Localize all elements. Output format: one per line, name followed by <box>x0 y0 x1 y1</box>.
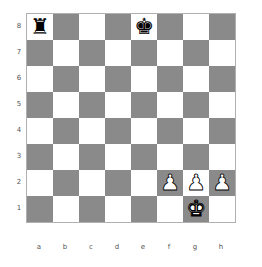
white-pawn-icon[interactable]: ♟ <box>186 170 206 196</box>
square-c4[interactable] <box>79 118 105 144</box>
square-g4[interactable] <box>183 118 209 144</box>
white-pawn-icon[interactable]: ♟ <box>212 170 232 196</box>
square-f8[interactable] <box>157 14 183 40</box>
square-h7[interactable] <box>209 40 235 66</box>
chess-board: ♜♚♟♟♟♚ <box>26 13 236 223</box>
file-label-h: h <box>208 243 234 251</box>
square-b6[interactable] <box>53 66 79 92</box>
square-c1[interactable] <box>79 196 105 222</box>
square-d4[interactable] <box>105 118 131 144</box>
square-f4[interactable] <box>157 118 183 144</box>
square-d3[interactable] <box>105 144 131 170</box>
square-a6[interactable] <box>27 66 53 92</box>
square-e5[interactable] <box>131 92 157 118</box>
white-pawn-icon[interactable]: ♟ <box>160 170 180 196</box>
square-g6[interactable] <box>183 66 209 92</box>
rank-label-6: 6 <box>14 74 24 82</box>
rank-label-8: 8 <box>14 22 24 30</box>
square-a1[interactable] <box>27 196 53 222</box>
square-h1[interactable] <box>209 196 235 222</box>
square-h8[interactable] <box>209 14 235 40</box>
square-b1[interactable] <box>53 196 79 222</box>
square-g2[interactable]: ♟ <box>183 170 209 196</box>
square-e2[interactable] <box>131 170 157 196</box>
square-h2[interactable]: ♟ <box>209 170 235 196</box>
file-label-d: d <box>104 243 130 251</box>
square-b3[interactable] <box>53 144 79 170</box>
rank-label-4: 4 <box>14 126 24 134</box>
square-c6[interactable] <box>79 66 105 92</box>
square-g1[interactable]: ♚ <box>183 196 209 222</box>
square-f2[interactable]: ♟ <box>157 170 183 196</box>
square-f1[interactable] <box>157 196 183 222</box>
square-a3[interactable] <box>27 144 53 170</box>
rank-label-1: 1 <box>14 204 24 212</box>
square-h5[interactable] <box>209 92 235 118</box>
square-h3[interactable] <box>209 144 235 170</box>
square-c7[interactable] <box>79 40 105 66</box>
file-label-a: a <box>26 243 52 251</box>
square-b4[interactable] <box>53 118 79 144</box>
rank-label-2: 2 <box>14 178 24 186</box>
square-d8[interactable] <box>105 14 131 40</box>
square-g7[interactable] <box>183 40 209 66</box>
square-h4[interactable] <box>209 118 235 144</box>
square-f3[interactable] <box>157 144 183 170</box>
square-b5[interactable] <box>53 92 79 118</box>
square-b7[interactable] <box>53 40 79 66</box>
square-d6[interactable] <box>105 66 131 92</box>
square-b2[interactable] <box>53 170 79 196</box>
square-e7[interactable] <box>131 40 157 66</box>
square-e8[interactable]: ♚ <box>131 14 157 40</box>
file-label-f: f <box>156 243 182 251</box>
square-a8[interactable]: ♜ <box>27 14 53 40</box>
square-e6[interactable] <box>131 66 157 92</box>
file-label-c: c <box>78 243 104 251</box>
black-rook-icon[interactable]: ♜ <box>30 14 50 40</box>
rank-label-7: 7 <box>14 48 24 56</box>
black-king-icon[interactable]: ♚ <box>134 14 154 40</box>
square-b8[interactable] <box>53 14 79 40</box>
square-f5[interactable] <box>157 92 183 118</box>
square-g8[interactable] <box>183 14 209 40</box>
square-d2[interactable] <box>105 170 131 196</box>
square-c3[interactable] <box>79 144 105 170</box>
square-g5[interactable] <box>183 92 209 118</box>
square-f6[interactable] <box>157 66 183 92</box>
square-e1[interactable] <box>131 196 157 222</box>
square-c8[interactable] <box>79 14 105 40</box>
file-label-e: e <box>130 243 156 251</box>
square-a2[interactable] <box>27 170 53 196</box>
file-label-g: g <box>182 243 208 251</box>
square-a5[interactable] <box>27 92 53 118</box>
square-d5[interactable] <box>105 92 131 118</box>
square-a7[interactable] <box>27 40 53 66</box>
square-h6[interactable] <box>209 66 235 92</box>
square-e4[interactable] <box>131 118 157 144</box>
rank-label-3: 3 <box>14 152 24 160</box>
white-king-icon[interactable]: ♚ <box>186 196 206 222</box>
square-d7[interactable] <box>105 40 131 66</box>
square-f7[interactable] <box>157 40 183 66</box>
square-e3[interactable] <box>131 144 157 170</box>
square-c5[interactable] <box>79 92 105 118</box>
square-g3[interactable] <box>183 144 209 170</box>
square-d1[interactable] <box>105 196 131 222</box>
square-a4[interactable] <box>27 118 53 144</box>
square-c2[interactable] <box>79 170 105 196</box>
rank-label-5: 5 <box>14 100 24 108</box>
file-label-b: b <box>52 243 78 251</box>
